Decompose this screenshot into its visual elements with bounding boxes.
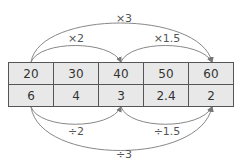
table-row-bottom: 6 4 3 2.4 2 xyxy=(9,85,234,107)
cell: 30 xyxy=(54,63,99,85)
arrow-div-3 xyxy=(31,107,212,151)
label-div-2: ÷2 xyxy=(68,125,84,138)
arrow-div-2 xyxy=(31,107,121,124)
cell: 20 xyxy=(9,63,54,85)
label-div-3: ÷3 xyxy=(116,148,132,161)
cell: 6 xyxy=(9,85,54,107)
label-times-2: ×2 xyxy=(68,32,84,45)
arrow-times-1-5 xyxy=(121,46,212,63)
cell: 2.4 xyxy=(144,85,189,107)
label-times-1-5: ×1.5 xyxy=(154,32,181,45)
table-row-top: 20 30 40 50 60 xyxy=(9,63,234,85)
ratio-table: 20 30 40 50 60 6 4 3 2.4 2 xyxy=(8,62,234,107)
cell: 3 xyxy=(99,85,144,107)
arrow-times-3 xyxy=(31,23,212,62)
cell: 2 xyxy=(189,85,234,107)
cell: 40 xyxy=(99,63,144,85)
arrow-times-2 xyxy=(31,46,121,63)
label-times-3: ×3 xyxy=(116,12,132,25)
arrow-div-1-5 xyxy=(121,107,212,124)
cell: 4 xyxy=(54,85,99,107)
cell: 60 xyxy=(189,63,234,85)
cell: 50 xyxy=(144,63,189,85)
label-div-1-5: ÷1.5 xyxy=(154,125,181,138)
